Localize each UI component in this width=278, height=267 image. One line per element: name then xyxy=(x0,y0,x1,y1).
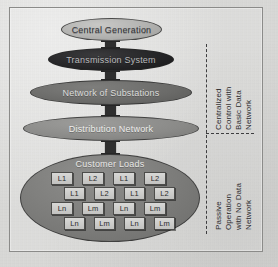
annotation-passive-operation: Passive Operation with No Data Network xyxy=(214,142,254,230)
node-distribution-network[interactable]: Distribution Network xyxy=(23,116,199,141)
load-box[interactable]: Ln xyxy=(113,202,135,215)
load-grid-row: L1 L2 L1 L2 xyxy=(64,187,175,200)
node-label: Customer Loads xyxy=(76,159,145,169)
node-transmission-system[interactable]: Transmission System xyxy=(48,48,174,71)
load-box[interactable]: L2 xyxy=(154,187,175,200)
load-box[interactable]: L1 xyxy=(113,172,135,185)
load-box[interactable]: L2 xyxy=(94,187,115,200)
load-box[interactable]: L2 xyxy=(144,172,166,185)
node-label: Network of Substations xyxy=(63,88,160,98)
load-box[interactable]: Lm xyxy=(144,202,166,215)
load-grid-row: Ln Lm Ln Lm xyxy=(64,217,175,230)
load-box[interactable]: L2 xyxy=(82,172,104,185)
node-network-of-substations[interactable]: Network of Substations xyxy=(30,80,192,105)
load-grid-row: L1 L2 L1 L2 xyxy=(51,172,175,185)
node-label: Transmission System xyxy=(66,55,156,65)
load-box[interactable]: Lm xyxy=(94,217,115,230)
node-label: Distribution Network xyxy=(69,124,154,134)
load-grid: L1 L2 L1 L2 L1 L2 L1 L2 Ln Lm Ln Lm xyxy=(51,172,175,232)
figure-canvas: Central Generation Transmission System N… xyxy=(0,0,278,267)
load-box[interactable]: Lm xyxy=(82,202,104,215)
load-grid-row: Ln Lm Ln Lm xyxy=(51,202,175,215)
diagram-stage: Central Generation Transmission System N… xyxy=(0,0,278,267)
load-box[interactable]: L1 xyxy=(124,187,145,200)
annotation-centralized-control: Centralized Control with Basic Data Netw… xyxy=(214,48,254,130)
load-box[interactable]: L1 xyxy=(51,172,73,185)
node-customer-loads[interactable]: Customer Loads L1 L2 L1 L2 L1 L2 L1 L2 L… xyxy=(20,154,200,242)
load-box[interactable]: Ln xyxy=(51,202,73,215)
load-box[interactable]: Lm xyxy=(154,217,175,230)
node-central-generation[interactable]: Central Generation xyxy=(61,18,162,41)
load-box[interactable]: Ln xyxy=(124,217,145,230)
load-box[interactable]: L1 xyxy=(64,187,85,200)
node-label: Central Generation xyxy=(72,25,152,35)
annotation-divider-horizontal xyxy=(206,133,254,134)
annotation-divider-vertical xyxy=(206,44,207,234)
load-box[interactable]: Ln xyxy=(64,217,85,230)
